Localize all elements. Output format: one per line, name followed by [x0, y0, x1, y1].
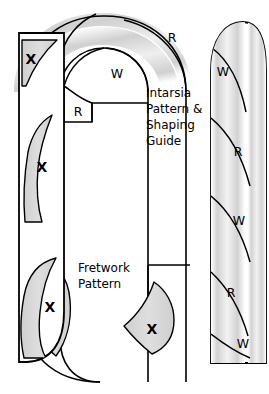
- code-letter-arc-w-right: W: [217, 64, 229, 79]
- left-fretwork-strip: [19, 33, 64, 362]
- intarsia-caption-line-2: Pattern &: [146, 102, 202, 116]
- fretwork-caption-line-2: Pattern: [78, 277, 121, 291]
- code-letter-arc-r-inner: R: [74, 104, 83, 119]
- code-letter-strip-r-2: R: [227, 285, 236, 300]
- right-strip-band-edge: [248, 22, 266, 363]
- code-letter-arc-w-left: W: [111, 66, 123, 81]
- pattern-diagram: Intarsia Pattern & Shaping Guide Fretwor…: [0, 0, 269, 394]
- intarsia-caption-line-1: Intarsia: [146, 86, 191, 100]
- intarsia-caption-line-4: Guide: [146, 134, 181, 148]
- x-mark-bottom-right: X: [147, 321, 158, 337]
- intarsia-caption-line-3: Shaping: [146, 118, 195, 132]
- code-letter-strip-w-2: W: [237, 336, 249, 351]
- code-letter-arc-r-top: R: [168, 30, 177, 45]
- fretwork-caption-line-1: Fretwork: [78, 261, 130, 275]
- x-mark-left-middle: X: [37, 159, 48, 175]
- pattern-illustration: Intarsia Pattern & Shaping Guide Fretwor…: [0, 0, 269, 394]
- x-mark-left-top: X: [26, 51, 37, 67]
- x-mark-left-bottom: X: [45, 299, 56, 315]
- code-letter-strip-w-1: W: [233, 213, 245, 228]
- code-letter-strip-r-1: R: [234, 144, 243, 159]
